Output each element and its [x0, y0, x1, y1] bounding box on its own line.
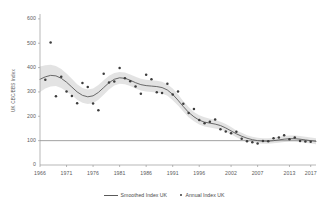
x-tick-label: 2017	[299, 171, 323, 176]
x-tick-label: 1996	[187, 171, 211, 176]
x-tick-label: 1986	[134, 171, 158, 176]
chart-container: UK CBC/BBS Index 1002003004005006000 196…	[0, 0, 328, 214]
legend-item-smoothed[interactable]: Smoothed Index UK	[104, 192, 167, 198]
x-tick-label: 1976	[81, 171, 105, 176]
confidence-band	[40, 65, 316, 145]
dot-swatch-icon	[180, 194, 182, 196]
y-tick-label: 200	[8, 114, 36, 119]
y-tick-label: 400	[8, 65, 36, 70]
y-tick-label: 600	[8, 16, 36, 21]
legend-label-smoothed: Smoothed Index UK	[121, 192, 167, 198]
smoothed-index-line	[40, 75, 316, 141]
line-swatch-icon	[104, 195, 118, 196]
x-tick-label: 1981	[108, 171, 132, 176]
x-tick-label: 2002	[219, 171, 243, 176]
x-tick-label: 1971	[55, 171, 79, 176]
chart-plot-area	[0, 0, 328, 214]
y-tick-label: 300	[8, 89, 36, 94]
y-tick-label: 100	[8, 138, 36, 143]
chart-legend: Smoothed Index UK Annual Index UK	[0, 192, 328, 198]
x-tick-label: 1991	[161, 171, 185, 176]
x-tick-label: 1966	[28, 171, 52, 176]
legend-item-annual[interactable]: Annual Index UK	[180, 192, 224, 198]
legend-label-annual: Annual Index UK	[185, 192, 224, 198]
x-tick-label: 2007	[246, 171, 270, 176]
y-tick-label-zero: 0	[8, 162, 36, 167]
y-tick-label: 500	[8, 41, 36, 46]
